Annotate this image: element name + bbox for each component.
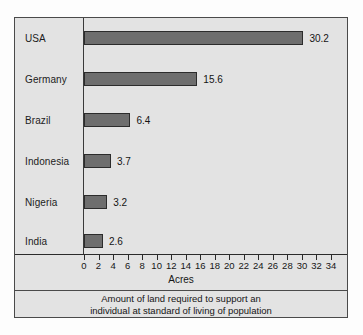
bar-row-usa: USA 30.2 [15,18,347,58]
chart-figure-frame: USA 30.2 Germany 15.6 Brazil 6.4 Indones… [14,17,348,318]
x-tick-label-4: 4 [110,260,115,271]
x-tick-label-0: 0 [81,260,86,271]
x-tick-label-18: 18 [209,260,220,271]
bar-indonesia [84,154,111,168]
category-label-india: India [25,236,47,247]
bar-value-germany: 15.6 [203,74,222,85]
bar-brazil [84,113,130,127]
x-tick-label-16: 16 [195,260,206,271]
x-tick-label-34: 34 [326,260,337,271]
x-tick-label-26: 26 [268,260,279,271]
bar-rows: USA 30.2 Germany 15.6 Brazil 6.4 Indones… [15,18,347,254]
plot-area: USA 30.2 Germany 15.6 Brazil 6.4 Indones… [15,18,347,254]
chart-caption: Amount of land required to support an in… [15,293,347,317]
category-label-usa: USA [25,33,46,44]
x-tick-label-14: 14 [180,260,191,271]
x-tick-label-8: 8 [139,260,144,271]
caption-line-2: individual at standard of living of popu… [15,305,347,317]
bar-value-brazil: 6.4 [136,115,150,126]
x-tick-label-12: 12 [166,260,177,271]
bar-value-indonesia: 3.7 [117,156,131,167]
x-tick-label-10: 10 [151,260,162,271]
x-tick-label-2: 2 [96,260,101,271]
x-axis-title: Acres [15,274,347,285]
caption-divider [15,290,347,291]
bar-row-germany: Germany 15.6 [15,59,347,99]
x-axis-tick-labels: 0246810121416182022242628303234 [15,260,347,273]
category-label-indonesia: Indonesia [25,156,69,167]
bar-usa [84,31,303,45]
bar-row-brazil: Brazil 6.4 [15,100,347,140]
caption-line-1: Amount of land required to support an [15,293,347,305]
bar-nigeria [84,195,107,209]
x-tick-label-28: 28 [282,260,293,271]
bar-value-india: 2.6 [109,236,123,247]
category-label-brazil: Brazil [25,115,51,126]
bar-value-nigeria: 3.2 [113,197,127,208]
category-label-germany: Germany [25,74,67,85]
x-tick-label-32: 32 [311,260,322,271]
bar-row-nigeria: Nigeria 3.2 [15,182,347,222]
bar-row-indonesia: Indonesia 3.7 [15,141,347,181]
x-tick-label-22: 22 [239,260,250,271]
x-tick-label-24: 24 [253,260,264,271]
x-tick-label-30: 30 [297,260,308,271]
chart-screenshot: USA 30.2 Germany 15.6 Brazil 6.4 Indones… [0,0,363,335]
bar-germany [84,72,197,86]
category-label-nigeria: Nigeria [25,197,57,208]
bar-value-usa: 30.2 [309,33,328,44]
x-tick-label-6: 6 [125,260,130,271]
bar-india [84,234,103,248]
x-tick-label-20: 20 [224,260,235,271]
